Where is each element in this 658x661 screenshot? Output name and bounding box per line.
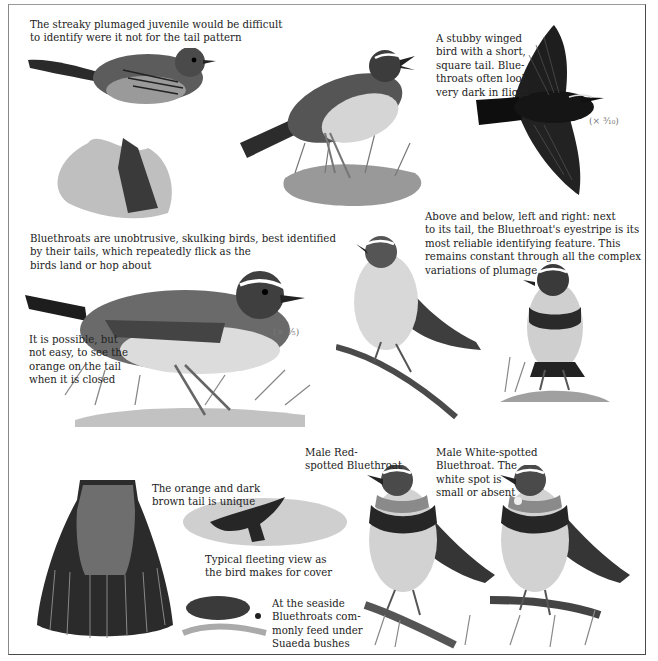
caption-eyestripe: Above and below, left and right: next to… [425, 210, 641, 277]
caption-closed-tail: It is possible, but not easy, to see the… [29, 333, 128, 387]
caption-red-spotted: Male Red- spotted Bluethroat [305, 446, 402, 473]
bird-on-ground-illustration [495, 262, 615, 407]
caption-juvenile: The streaky plumaged juvenile would be d… [30, 18, 282, 45]
scale-flight: (× ³⁄₁₀) [589, 116, 619, 126]
juvenile-bird-illustration [28, 48, 218, 223]
caption-flight: A stubby winged bird with a short, squar… [436, 32, 529, 99]
scale-main: (× ³⁄₅) [273, 327, 299, 337]
caption-seaside: At the seaside Bluethroats com- monly fe… [272, 597, 363, 651]
caption-white-spotted: Male White-spotted Bluethroat. The white… [436, 446, 538, 500]
seaside-bush-illustration [178, 588, 268, 638]
adult-bird-grass-illustration [235, 48, 440, 208]
caption-skulking: Bluethroats are unobtrusive, skulking bi… [30, 232, 336, 272]
caption-tail-unique: The orange and dark brown tail is unique [152, 482, 260, 509]
caption-fleeting: Typical fleeting view as the bird makes … [205, 553, 332, 580]
